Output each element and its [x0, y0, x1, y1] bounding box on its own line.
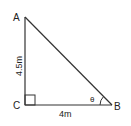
angle-arc-b	[100, 97, 104, 106]
vertex-label-a: A	[13, 12, 20, 23]
vertex-label-b: B	[114, 101, 121, 112]
side-ab	[25, 17, 112, 105]
triangle-diagram: A C B 4.5m 4m θ	[0, 0, 131, 126]
triangle	[25, 17, 112, 105]
angle-label-theta: θ	[90, 95, 95, 104]
vertex-label-c: C	[13, 100, 20, 111]
right-angle-marker	[25, 95, 35, 105]
side-label-ac: 4.5m	[14, 56, 24, 76]
side-label-cb: 4m	[59, 109, 72, 119]
